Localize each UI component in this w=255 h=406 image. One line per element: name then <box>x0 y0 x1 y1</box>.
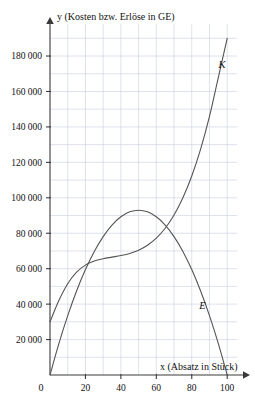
cost-revenue-chart: 20 00040 00060 00080 000100 000120 00014… <box>0 0 255 406</box>
x-axis-arrow-icon <box>243 371 250 379</box>
origin-label: 0 <box>39 382 44 393</box>
vertical-gridlines <box>68 24 227 375</box>
horizontal-gridlines <box>50 38 237 357</box>
y-tick-label: 20 000 <box>16 335 42 345</box>
y-axis-title: y (Kosten bzw. Erlöse in GE) <box>57 11 175 23</box>
y-tick-label: 140 000 <box>11 122 42 132</box>
y-tick-label: 120 000 <box>11 158 42 168</box>
curve-label-K: K <box>217 59 226 70</box>
curve-labels-group: K E <box>198 59 226 311</box>
chart-container: 20 00040 00060 00080 000100 000120 00014… <box>0 0 255 406</box>
gridlines-group <box>50 24 237 375</box>
y-tick-label: 160 000 <box>11 87 42 97</box>
x-axis-ticks: 20406080100 <box>81 374 235 393</box>
x-tick-label: 80 <box>187 383 197 393</box>
x-tick-label: 60 <box>152 383 162 393</box>
y-tick-label: 60 000 <box>16 264 42 274</box>
y-tick-label: 40 000 <box>16 300 42 310</box>
x-tick-label: 100 <box>220 383 235 393</box>
x-tick-label: 20 <box>81 383 91 393</box>
x-tick-label: 40 <box>116 383 126 393</box>
y-tick-label: 180 000 <box>11 51 42 61</box>
y-tick-label: 100 000 <box>11 193 42 203</box>
y-tick-label: 80 000 <box>16 229 42 239</box>
y-axis-arrow-icon <box>46 17 54 24</box>
curve-label-E: E <box>198 300 206 311</box>
y-axis-ticks: 20 00040 00060 00080 000100 000120 00014… <box>11 51 51 345</box>
